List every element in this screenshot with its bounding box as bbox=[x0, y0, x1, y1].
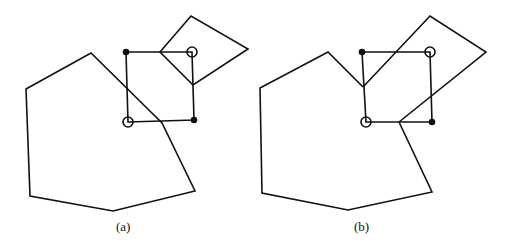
figure-a bbox=[26, 16, 248, 211]
figure-a-quad bbox=[160, 16, 248, 85]
figure-b-square bbox=[362, 52, 432, 122]
figure-a-filled-dot-icon bbox=[124, 50, 129, 55]
caption-b: (b) bbox=[354, 219, 369, 235]
figure-b-quad bbox=[363, 16, 486, 122]
figure-b-filled-dot-icon bbox=[430, 120, 435, 125]
figure-a-square bbox=[126, 52, 194, 122]
figure-b-polygon bbox=[260, 52, 432, 210]
diagram-canvas bbox=[0, 0, 511, 248]
figure-b bbox=[260, 16, 486, 210]
caption-a: (a) bbox=[116, 219, 130, 235]
figure-a-polygon bbox=[26, 53, 195, 211]
figure-b-filled-dot-icon bbox=[360, 50, 365, 55]
figure-a-filled-dot-icon bbox=[192, 118, 197, 123]
